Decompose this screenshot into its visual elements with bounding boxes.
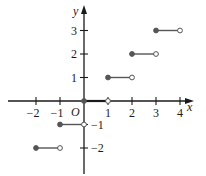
x-tick-label: −1 <box>51 106 64 120</box>
closed-endpoint-dot <box>106 75 111 80</box>
x-axis-label: x <box>186 100 193 114</box>
open-endpoint-dot <box>130 75 135 80</box>
x-tick-label: 3 <box>153 106 159 120</box>
open-endpoint-dot <box>82 122 87 127</box>
closed-endpoint-dot <box>82 99 87 104</box>
closed-endpoint-dot <box>154 28 159 33</box>
y-tick-label: −1 <box>91 118 104 132</box>
open-endpoint-dot <box>154 52 159 57</box>
step-segments <box>36 31 180 149</box>
x-tick-label: 4 <box>177 106 183 120</box>
open-endpoint-dot <box>178 28 183 33</box>
y-tick-label: 2 <box>71 47 77 61</box>
y-tick-label: −2 <box>91 141 104 155</box>
y-axis-arrow-icon <box>81 5 87 14</box>
open-endpoint-dot <box>106 99 111 104</box>
closed-endpoint-dot <box>34 146 39 151</box>
origin-label: O <box>71 105 80 119</box>
x-tick-label: −2 <box>27 106 40 120</box>
open-endpoint-dot <box>58 146 63 151</box>
x-tick-label: 2 <box>129 106 135 120</box>
y-tick-label: 1 <box>71 71 77 85</box>
step-function-graph: −2−11234321−1−2 x y O <box>0 0 206 176</box>
y-tick-label: 3 <box>71 24 77 38</box>
closed-endpoint-dot <box>130 52 135 57</box>
endpoint-dots <box>34 28 183 150</box>
ticks <box>36 31 180 149</box>
tick-labels: −2−11234321−1−2 <box>27 24 183 156</box>
closed-endpoint-dot <box>58 122 63 127</box>
y-axis-label: y <box>72 4 79 18</box>
x-tick-label: 1 <box>105 106 111 120</box>
